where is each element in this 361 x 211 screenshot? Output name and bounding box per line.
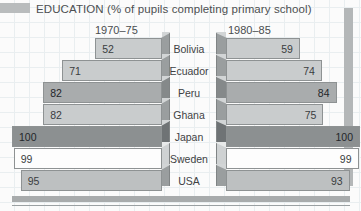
period-label-right: 1980–85 xyxy=(228,24,271,36)
bar-value-label: 93 xyxy=(325,175,349,187)
education-bar-chart: EDUCATION (% of pupils completing primar… xyxy=(0,0,361,211)
bar-ecuador-1970: 71 xyxy=(62,60,162,81)
bar-row: 95 xyxy=(0,170,162,192)
bar-peru-1970: 82 xyxy=(43,82,162,103)
bar-sweden-1970: 99 xyxy=(14,148,162,169)
bar-value-label: 59 xyxy=(275,43,299,55)
bar-row: 52 xyxy=(0,38,162,60)
country-label: Sweden xyxy=(160,148,218,170)
bar-value-label: 95 xyxy=(22,175,46,187)
bar-usa-1980: 93 xyxy=(226,170,350,191)
bar-row: 93 xyxy=(216,170,361,192)
bar-row: 100 xyxy=(216,126,361,148)
corner-swatch-decoration xyxy=(0,3,30,13)
bars-panel-1970-75: 52 71 82 82 100 99 95 xyxy=(0,38,162,192)
bar-ghana-1970: 82 xyxy=(43,104,162,125)
bottom-rail-decoration xyxy=(12,196,350,202)
bar-value-label: 84 xyxy=(312,87,336,99)
bar-row: 100 xyxy=(0,126,162,148)
bottom-rule-decoration xyxy=(12,205,350,206)
period-label-left: 1970–75 xyxy=(95,24,138,36)
bar-peru-1980: 84 xyxy=(226,82,337,103)
bar-usa-1970: 95 xyxy=(21,170,162,191)
chart-title: EDUCATION (% of pupils completing primar… xyxy=(36,3,312,15)
country-label: Ghana xyxy=(160,104,218,126)
bar-row: 84 xyxy=(216,82,361,104)
bar-japan-1980: 100 xyxy=(226,126,360,147)
bar-row: 99 xyxy=(0,148,162,170)
bar-value-label: 82 xyxy=(44,87,68,99)
bar-row: 99 xyxy=(216,148,361,170)
bar-value-label: 52 xyxy=(96,43,120,55)
bar-value-label: 82 xyxy=(44,109,68,121)
bar-sweden-1980: 99 xyxy=(226,148,359,169)
bar-row: 59 xyxy=(216,38,361,60)
country-label: USA xyxy=(160,170,218,192)
country-label: Peru xyxy=(160,82,218,104)
bar-row: 74 xyxy=(216,60,361,82)
bar-value-label: 99 xyxy=(15,153,39,165)
bar-row: 75 xyxy=(216,104,361,126)
bar-value-label: 71 xyxy=(63,65,87,77)
bar-bolivia-1970: 52 xyxy=(95,38,162,59)
country-label-column: Bolivia Ecuador Peru Ghana Japan Sweden … xyxy=(160,38,218,192)
bar-bolivia-1980: 59 xyxy=(226,38,300,59)
bar-value-label: 100 xyxy=(329,131,359,143)
bar-row: 71 xyxy=(0,60,162,82)
bar-japan-1970: 100 xyxy=(12,126,162,147)
bar-value-label: 75 xyxy=(299,109,323,121)
bar-value-label: 99 xyxy=(334,153,358,165)
bar-row: 82 xyxy=(0,104,162,126)
bar-row: 82 xyxy=(0,82,162,104)
bars-panel-1980-85: 59 74 84 75 100 99 93 xyxy=(216,38,361,192)
bar-ecuador-1980: 74 xyxy=(226,60,322,81)
bar-value-label: 100 xyxy=(13,131,43,143)
bar-ghana-1980: 75 xyxy=(226,104,323,125)
country-label: Ecuador xyxy=(160,60,218,82)
country-label: Bolivia xyxy=(160,38,218,60)
bar-value-label: 74 xyxy=(297,65,321,77)
country-label: Japan xyxy=(160,126,218,148)
